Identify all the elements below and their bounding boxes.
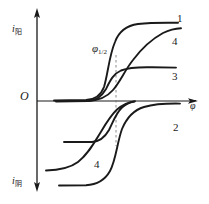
curve-label-2: 2 (173, 122, 179, 133)
origin-label: O (20, 90, 29, 102)
axis-label-potential-symbol: φ (190, 100, 196, 111)
figure-canvas (0, 0, 209, 204)
curves-group (46, 23, 181, 186)
axis-label-anodic-current: i阳 (12, 24, 22, 36)
curve-label-3: 3 (172, 71, 178, 82)
half-wave-potential-subscript: 1/2 (98, 48, 107, 56)
curve-label-1: 1 (177, 13, 183, 24)
axis-label-anodic-subscript: 阳 (15, 28, 22, 36)
curve-4-lower-path (46, 101, 135, 170)
polarization-curve-figure: i阳 i阴 φ O φ1/2 1 4 3 2 4 (0, 0, 209, 204)
half-wave-potential-label: φ1/2 (92, 43, 107, 56)
axis-label-potential: φ (190, 100, 196, 111)
axis-label-cathodic-subscript: 阴 (15, 180, 22, 188)
curve-label-4-upper: 4 (172, 36, 178, 47)
curve-2-path (59, 104, 180, 186)
axis-label-cathodic-current: i阴 (12, 176, 22, 188)
curve-label-4-lower: 4 (94, 159, 100, 170)
